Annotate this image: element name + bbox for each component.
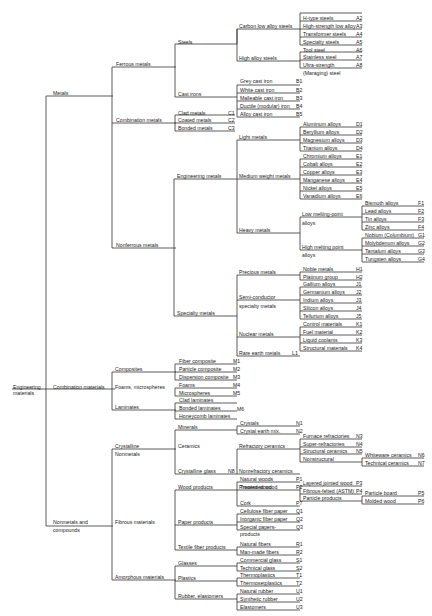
leaf-code: P4 [356, 488, 362, 494]
leaf-code: G3 [418, 248, 425, 254]
materials-classification-tree: EngineeringmaterialsMetalsCombination ma… [0, 0, 432, 616]
leaf-label: Transformer steels [303, 31, 346, 37]
leaf-code: A6 [356, 47, 362, 53]
category-label: High melting point [302, 244, 344, 250]
leaf-label: Treated wood [240, 484, 272, 490]
leaf-code: B1 [296, 78, 302, 84]
leaf-label: Furnace refractories [303, 433, 349, 439]
leaf-label: Super-refractories [303, 441, 345, 447]
leaf-label: Chromium alloys [303, 153, 342, 159]
category-label: Crystalline [115, 443, 139, 449]
leaf-code: N3 [356, 433, 363, 439]
leaf-code: A4 [356, 31, 362, 37]
leaf-code: P3 [356, 480, 362, 486]
leaf-code: G2 [418, 240, 425, 246]
leaf-code: Q1 [296, 508, 303, 514]
category-label: Nonrefractory ceramics [239, 468, 293, 474]
leaf-code: S2 [296, 565, 302, 571]
leaf-code: M4 [233, 382, 240, 388]
leaf-code: K2 [356, 329, 362, 335]
leaf-code: F2 [418, 208, 424, 214]
leaf-label: Dispersion composite [179, 374, 229, 380]
leaf-code: R2 [296, 549, 303, 555]
leaf-label: Malleable cast iron [240, 95, 283, 101]
leaf-label: Stainless steel [303, 54, 336, 60]
leaf-label: Layered jointed wood [303, 480, 352, 486]
leaf-label: Alloy cast iron [240, 111, 272, 117]
leaf-code: D2 [356, 129, 363, 135]
leaf-code: J3 [356, 297, 361, 303]
leaf-label: Ultra-strength [303, 62, 334, 68]
category-label: compounds [53, 527, 80, 533]
leaf-label: Man-made fibers [240, 549, 279, 555]
leaf-label: Indium alloys [303, 297, 333, 303]
leaf-label: Noble metals [303, 266, 333, 272]
category-label: Nuclear metals [239, 331, 274, 337]
category-label: Heavy metals [239, 227, 270, 233]
leaf-code: D1 [356, 121, 363, 127]
leaf-label: Cobalt alloys [303, 161, 333, 167]
category-label: Amorphous materials [115, 574, 164, 580]
side-code: N8 [228, 468, 235, 474]
leaf-code: D3 [356, 137, 363, 143]
leaf-label: Liquid coolants [303, 337, 338, 343]
leaf-label: Molybdenum alloys [365, 240, 409, 246]
leaf-label: Nickel alloys [303, 185, 332, 191]
leaf-code: A5 [356, 39, 362, 45]
leaf-code: F3 [418, 216, 424, 222]
leaf-code: M5 [233, 390, 240, 396]
category-label: Medium weight metals [239, 173, 291, 179]
category-label: alloys [302, 252, 315, 258]
category-label: Combination materials [53, 384, 105, 390]
leaf-label: Control materials [303, 321, 342, 327]
leaf-code: H2 [356, 274, 363, 280]
category-label: Glasses [178, 560, 197, 566]
leaf-code: S1 [296, 557, 302, 563]
leaf-label: Platinum group [303, 274, 338, 280]
leaf-code: E3 [356, 169, 362, 175]
category-label: Ceramics [178, 443, 200, 449]
leaf-code: N4 [356, 441, 363, 447]
leaf-code: J4 [356, 305, 361, 311]
leaf-label: Nonstructural [303, 456, 334, 462]
leaf-code: K3 [356, 337, 362, 343]
leaf-code: N5 [356, 448, 363, 454]
category-label: Nonferrous metals [116, 242, 158, 248]
side-code: C2 [228, 117, 235, 123]
leaf-label: Elastomers [240, 604, 266, 610]
leaf-label: Particle products [303, 495, 342, 501]
leaf-label: products [240, 531, 260, 537]
leaf-code: B4 [296, 103, 302, 109]
side-code: C3 [228, 125, 235, 131]
category-label: Plastics [178, 575, 196, 581]
leaf-code: E2 [356, 161, 362, 167]
category-label: Specialty metals [177, 310, 215, 316]
leaf-label: Clad laminates [179, 397, 213, 403]
leaf-label: Beryllium alloys [303, 129, 339, 135]
leaf-code: P5 [418, 490, 424, 496]
leaf-label: Thermosetplastics [240, 580, 282, 586]
category-label: materials [13, 390, 34, 396]
leaf-code: M2 [233, 366, 240, 372]
leaf-label: Particle board [365, 490, 397, 496]
leaf-label: Fiber composite [179, 358, 216, 364]
leaf-label: Magnesium alloys [303, 137, 345, 143]
leaf-code: F4 [418, 224, 424, 230]
category-label: Fibrous materials [115, 519, 155, 525]
category-label: Cast irons [178, 91, 201, 97]
leaf-code: P7 [296, 500, 302, 506]
category-label: Wood products [178, 484, 213, 490]
leaf-label: Manganese alloys [303, 177, 345, 183]
leaf-label: Specialty steels [303, 39, 339, 45]
leaf-code: E1 [356, 153, 362, 159]
leaf-label: Technical glass [240, 565, 275, 571]
leaf-label: (Maraging) steel [303, 70, 340, 76]
leaf-code: Q3 [296, 524, 303, 530]
leaf-code: K4 [356, 345, 362, 351]
leaf-label: Natural woods [240, 476, 273, 482]
leaf-code: A3 [356, 23, 362, 29]
leaf-code: B2 [296, 87, 302, 93]
leaf-label: H-type steels [303, 15, 333, 21]
category-label: Steels [178, 39, 192, 45]
leaf-code: T1 [296, 572, 302, 578]
